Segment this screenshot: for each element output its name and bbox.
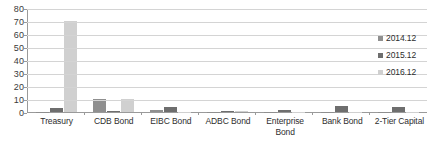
legend: 2014.122015.122016.12	[378, 30, 434, 81]
y-axis-tick-label: 30	[0, 70, 24, 79]
grid-line	[27, 9, 427, 10]
legend-swatch-icon	[378, 70, 383, 75]
x-axis-category-label: Enterprise Bond	[257, 116, 314, 138]
grid-line	[27, 87, 427, 88]
x-axis-category-label: Treasury	[28, 116, 85, 138]
y-axis-tick-label: 40	[0, 57, 24, 66]
x-axis-group-tick	[312, 112, 313, 115]
y-axis-tick	[24, 113, 27, 114]
y-axis-tick-label: 0	[0, 109, 24, 118]
x-axis-group-tick	[141, 112, 142, 115]
y-axis-tick-label: 80	[0, 5, 24, 14]
legend-item[interactable]: 2016.12	[378, 64, 434, 81]
bar[interactable]	[50, 108, 63, 112]
bar[interactable]	[121, 99, 134, 112]
bar[interactable]	[278, 110, 291, 112]
x-axis-group-tick	[84, 112, 85, 115]
x-axis-group-tick	[255, 112, 256, 115]
x-axis-category-label: CDB Bond	[85, 116, 142, 138]
bar[interactable]	[164, 107, 177, 112]
y-axis-tick-label: 70	[0, 18, 24, 27]
y-axis-tick-label: 50	[0, 44, 24, 53]
bar[interactable]	[235, 111, 248, 112]
legend-label: 2014.12	[386, 34, 416, 43]
grid-line	[27, 74, 427, 75]
x-axis-labels: TreasuryCDB BondEIBC BondADBC BondEnterp…	[28, 116, 428, 138]
grid-line	[27, 61, 427, 62]
y-axis-tick-label: 10	[0, 96, 24, 105]
x-axis-group-tick	[369, 112, 370, 115]
x-axis-category-label: 2-Tier Capital	[371, 116, 428, 138]
x-axis-category-label: ADBC Bond	[199, 116, 256, 138]
legend-item[interactable]: 2015.12	[378, 47, 434, 64]
plot-area	[27, 9, 427, 113]
legend-swatch-icon	[378, 36, 383, 41]
x-axis-category-label: Bank Bond	[314, 116, 371, 138]
bar[interactable]	[93, 99, 106, 112]
grid-line	[27, 100, 427, 101]
bar[interactable]	[221, 111, 234, 112]
bar[interactable]	[107, 111, 120, 112]
bar[interactable]	[392, 107, 405, 112]
legend-swatch-icon	[378, 53, 383, 58]
bar[interactable]	[335, 106, 348, 112]
y-axis-tick-label: 20	[0, 83, 24, 92]
legend-label: 2015.12	[386, 51, 416, 60]
y-axis-tick-label: 60	[0, 31, 24, 40]
legend-item[interactable]: 2014.12	[378, 30, 434, 47]
x-axis-category-label: EIBC Bond	[142, 116, 199, 138]
bar[interactable]	[150, 110, 163, 112]
bar-chart: 01020304050607080 TreasuryCDB BondEIBC B…	[0, 0, 434, 151]
x-axis-group-tick	[198, 112, 199, 115]
legend-label: 2016.12	[386, 68, 416, 77]
y-axis: 01020304050607080	[0, 0, 24, 113]
grid-line	[27, 22, 427, 23]
grid-line	[27, 48, 427, 49]
x-axis-line	[27, 112, 427, 113]
grid-line	[27, 35, 427, 36]
